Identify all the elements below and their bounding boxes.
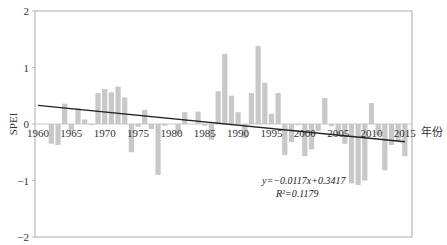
bar-1990 xyxy=(236,112,241,124)
bar-1996 xyxy=(276,93,281,124)
bar-2010 xyxy=(369,103,374,124)
bar-1967 xyxy=(82,119,87,124)
bar-1995 xyxy=(269,114,274,124)
y-tick-label: −1 xyxy=(17,175,29,187)
y-tick-label: 2 xyxy=(24,5,30,17)
bar-series xyxy=(49,46,408,185)
bar-2003 xyxy=(322,98,327,124)
x-tick-label: 1985 xyxy=(194,127,217,139)
y-axis-ticks: 210−1−2 xyxy=(17,5,35,243)
y-axis-title: SPEI xyxy=(7,112,19,135)
spei-bar-chart: 210−1−2 19601965197019751980198519901995… xyxy=(0,0,447,245)
bar-1970 xyxy=(102,89,107,124)
bar-1966 xyxy=(75,108,80,124)
bar-1987 xyxy=(215,91,220,124)
x-tick-label: 2015 xyxy=(394,127,417,139)
x-tick-label: 1970 xyxy=(94,127,117,139)
bar-1973 xyxy=(122,97,127,124)
bar-1984 xyxy=(195,112,200,124)
bar-2012 xyxy=(382,124,387,170)
bar-1993 xyxy=(256,46,261,124)
bar-2007 xyxy=(349,124,354,183)
bar-1971 xyxy=(109,92,114,124)
y-tick-label: 1 xyxy=(24,62,30,74)
r-squared-label: R²=0.1179 xyxy=(275,188,319,199)
x-tick-label: 1980 xyxy=(160,127,183,139)
x-axis-title: 年份 xyxy=(421,125,443,138)
bar-1989 xyxy=(229,96,234,124)
x-tick-label: 1960 xyxy=(27,127,50,139)
bar-1976 xyxy=(142,110,147,124)
bar-1982 xyxy=(182,112,187,124)
bar-1972 xyxy=(115,87,120,124)
bar-1969 xyxy=(95,93,100,124)
bar-1964 xyxy=(62,104,67,124)
bar-1962 xyxy=(49,124,54,144)
x-tick-label: 1965 xyxy=(60,127,83,139)
x-tick-label: 1975 xyxy=(127,127,150,139)
bar-1977 xyxy=(149,124,154,129)
bar-2002 xyxy=(316,124,321,131)
bar-1988 xyxy=(222,54,227,124)
y-tick-label: −2 xyxy=(17,231,29,243)
x-tick-label: 1990 xyxy=(227,127,250,139)
regression-equation: y=−0.0117x+0.3417 xyxy=(261,175,346,186)
bar-1992 xyxy=(249,93,254,124)
x-tick-label: 2005 xyxy=(327,127,350,139)
bar-1997 xyxy=(282,124,287,155)
bar-1994 xyxy=(262,83,267,124)
